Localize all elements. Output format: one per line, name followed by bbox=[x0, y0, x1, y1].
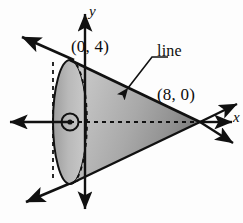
axis-z-negative bbox=[22, 37, 74, 60]
figure-canvas bbox=[0, 0, 243, 223]
cone-revolution-figure: (0, 4) (8, 0) line y x bbox=[0, 0, 243, 223]
axis-z-positive bbox=[200, 104, 237, 143]
point-label-0-4: (0, 4) bbox=[71, 38, 109, 55]
axis-label-x: x bbox=[233, 110, 240, 125]
point-label-8-0: (8, 0) bbox=[157, 86, 195, 103]
apex-ray-lower-right bbox=[200, 122, 233, 143]
apex-ray-upper-right bbox=[200, 104, 237, 122]
annotation-label-line: line bbox=[157, 43, 182, 59]
leader-line-icon bbox=[128, 57, 168, 88]
axis-label-y: y bbox=[89, 4, 96, 19]
